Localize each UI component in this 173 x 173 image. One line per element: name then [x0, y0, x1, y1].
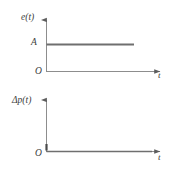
amplitude-label-A: A [31, 38, 37, 48]
chart-e-of-t: e(t) A O t [0, 0, 173, 88]
y-axis-label-bottom: Δp(t) [12, 96, 31, 106]
chart-delta-p-of-t: Δp(t) O t [0, 86, 173, 173]
y-axis-label-top: e(t) [21, 13, 34, 23]
origin-label-top: O [35, 67, 42, 77]
x-axis-label-bottom: t [158, 153, 161, 162]
x-axis-label-top: t [158, 71, 161, 80]
origin-label-bottom: O [35, 149, 42, 159]
signal-plots-figure: e(t) A O t Δp(t) O t [0, 0, 173, 173]
